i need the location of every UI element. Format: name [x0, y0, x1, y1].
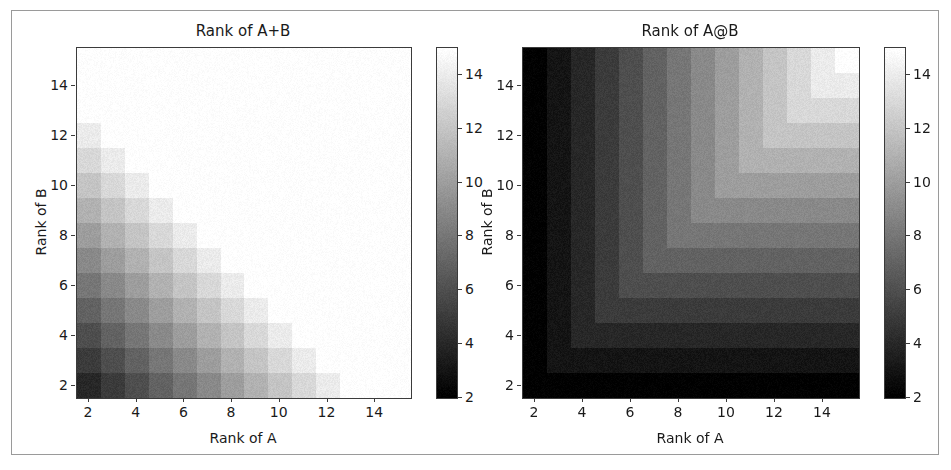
y-tick-mark [517, 135, 521, 136]
colorbar [884, 47, 906, 399]
colorbar-gradient [885, 48, 905, 398]
colorbar-tick-label: 12 [913, 120, 931, 136]
colorbar-tick-label: 4 [913, 335, 922, 351]
colorbar-tick-mark [906, 289, 910, 290]
axes-title: Rank of A@B [641, 22, 738, 40]
y-tick-mark [517, 235, 521, 236]
colorbar-tick-mark [906, 235, 910, 236]
colorbar-tick-mark [906, 74, 910, 75]
y-tick-label: 4 [486, 327, 514, 343]
x-tick-label: 12 [765, 404, 783, 420]
y-axis-label: Rank of B [479, 189, 495, 256]
x-tick-label: 8 [674, 404, 683, 420]
colorbar-tick-label: 2 [913, 389, 922, 405]
x-tick-mark [534, 398, 535, 402]
figure-frame: Rank of A+B24681012142468101214Rank of A… [11, 10, 939, 455]
x-tick-mark [822, 398, 823, 402]
colorbar-tick-mark [906, 397, 910, 398]
y-tick-mark [517, 285, 521, 286]
y-tick-label: 14 [486, 77, 514, 93]
y-tick-mark [517, 85, 521, 86]
y-tick-mark [517, 335, 521, 336]
x-tick-label: 6 [626, 404, 635, 420]
heatmap-image [523, 48, 859, 398]
x-tick-mark [582, 398, 583, 402]
x-tick-mark [678, 398, 679, 402]
x-tick-label: 14 [813, 404, 831, 420]
heatmap-axes [522, 47, 860, 399]
x-axis-label: Rank of A [657, 430, 724, 446]
colorbar-tick-mark [906, 182, 910, 183]
y-tick-label: 2 [486, 377, 514, 393]
x-tick-mark [630, 398, 631, 402]
colorbar-tick-mark [906, 343, 910, 344]
subplot-rank-a-at-b: Rank of A@B24681012142468101214Rank of A… [12, 11, 940, 456]
colorbar-tick-label: 14 [913, 66, 931, 82]
y-tick-mark [517, 185, 521, 186]
x-tick-label: 10 [717, 404, 735, 420]
colorbar-tick-label: 10 [913, 174, 931, 190]
colorbar-tick-label: 6 [913, 281, 922, 297]
x-tick-label: 2 [530, 404, 539, 420]
y-tick-mark [517, 385, 521, 386]
matplotlib-figure: Rank of A+B24681012142468101214Rank of A… [0, 0, 951, 470]
colorbar-tick-label: 8 [913, 227, 922, 243]
x-tick-mark [726, 398, 727, 402]
x-tick-mark [774, 398, 775, 402]
y-tick-label: 12 [486, 127, 514, 143]
x-tick-label: 4 [578, 404, 587, 420]
colorbar-tick-mark [906, 128, 910, 129]
y-tick-label: 6 [486, 277, 514, 293]
